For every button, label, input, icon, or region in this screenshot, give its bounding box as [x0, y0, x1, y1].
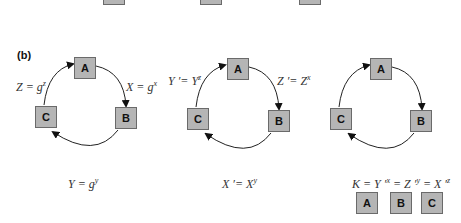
node-c: C	[35, 106, 57, 128]
node-a: A	[370, 58, 392, 80]
label-c-to-a: Z = gz	[16, 79, 46, 95]
caption-1: Y = gy	[68, 176, 98, 192]
node-c: C	[187, 108, 209, 130]
node-b: B	[268, 110, 290, 132]
shared-key-caption: K = Y ′x = Z ′y = X ′z	[352, 176, 450, 192]
key-holder-b: B	[390, 192, 412, 214]
node-b: B	[115, 107, 137, 129]
label-a-to-b: X = gx	[126, 79, 157, 95]
node-a: A	[74, 57, 96, 79]
key-holder-c: C	[421, 192, 443, 214]
node-c: C	[330, 108, 352, 130]
label-a-to-b: Z ′= Zx	[277, 73, 311, 89]
node-b: B	[410, 110, 432, 132]
node-a: A	[227, 58, 249, 80]
caption-2: X ′= Xy	[222, 176, 257, 192]
key-holder-a: A	[356, 192, 378, 214]
label-c-to-a: Y ′= Yz	[168, 73, 201, 89]
